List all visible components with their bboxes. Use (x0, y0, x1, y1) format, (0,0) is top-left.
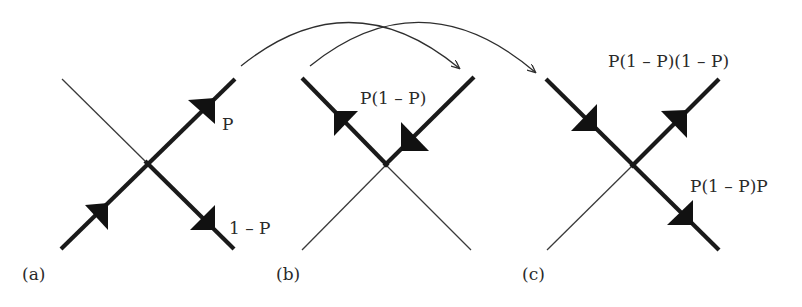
thin-line-lower-right (386, 165, 471, 250)
diagram-canvas: P 1 – P (a) P(1 – P) (b) P(1 – P)(1 – P)… (0, 0, 802, 307)
panel-a: P 1 – P (a) (22, 79, 271, 284)
label-p-one-minus-p-p: P(1 – P)P (690, 176, 768, 196)
transition-arc-b-to-c (310, 22, 535, 72)
label-p-one-minus-p: P(1 – P) (360, 88, 426, 108)
thick-line-lower-right (145, 161, 234, 249)
panel-b: P(1 – P) (b) (276, 77, 474, 284)
label-one-minus-p: 1 – P (229, 218, 271, 238)
arrow-up-right-icon (85, 203, 108, 230)
thin-line-lower-left (302, 165, 386, 250)
panel-caption-a: (a) (22, 264, 45, 284)
panel-caption-b: (b) (276, 264, 300, 284)
thin-line (62, 79, 147, 163)
panel-c: P(1 – P)(1 – P) P(1 – P)P (c) (522, 51, 768, 284)
thin-line-lower-left (547, 165, 633, 250)
label-p: P (222, 114, 233, 134)
panel-caption-c: (c) (522, 264, 545, 284)
label-p-one-minus-p-squared: P(1 – P)(1 – P) (608, 51, 729, 71)
transition-arc-a-to-b (241, 22, 459, 68)
